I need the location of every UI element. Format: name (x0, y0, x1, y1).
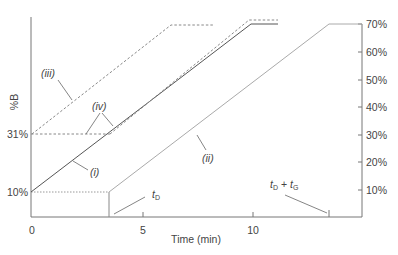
leader-iv-a (86, 113, 100, 134)
td-annotation: tD (152, 188, 160, 201)
left-tick-label-10: 10% (7, 186, 28, 198)
axes (31, 17, 362, 217)
right-tick-label-70: 70% (366, 18, 387, 30)
gradient-chart: %B 31% 10% 0 5 10 Time (min) 70% 60% 50%… (0, 0, 398, 255)
right-tick-label-20: 20% (366, 156, 387, 168)
tdtg-plus: + (278, 178, 290, 190)
leader-iv-b (102, 113, 113, 126)
series-ii-label: (ii) (202, 152, 214, 164)
leader-td (114, 197, 145, 214)
series-i (31, 24, 278, 192)
right-tick-label-60: 60% (366, 46, 387, 58)
x-tick-label-10: 10 (247, 224, 259, 236)
series-iii (32, 25, 213, 134)
leader-ii (197, 135, 206, 150)
right-tick-label-30: 30% (366, 129, 387, 141)
td-sub: D (155, 194, 160, 201)
series-iv-gradient (110, 20, 278, 134)
tdtg-annotation: tD + tG (270, 178, 298, 191)
right-tick-label-10: 10% (366, 184, 387, 196)
leader-i (73, 161, 88, 170)
series-ii (31, 24, 362, 217)
leader-iii (58, 80, 72, 100)
x-axis-label: Time (min) (171, 233, 221, 245)
series-iv (31, 20, 278, 134)
series-ii-gradient (109, 24, 362, 192)
x-tick-label-5: 5 (140, 224, 146, 236)
series-i-label: (i) (90, 166, 99, 178)
leader-tdtg (285, 195, 327, 213)
series-iv-label: (iv) (92, 100, 107, 112)
series-iii-label: (iii) (41, 67, 55, 79)
left-tick-label-31: 31% (7, 128, 28, 140)
right-tick-label-50: 50% (366, 74, 387, 86)
right-tick-label-40: 40% (366, 101, 387, 113)
y-axis-label: %B (8, 94, 20, 110)
x-tick-label-0: 0 (29, 224, 35, 236)
tdtg-sub2: G (293, 184, 298, 191)
